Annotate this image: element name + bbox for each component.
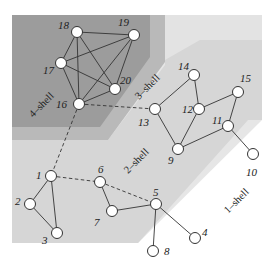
node-label-18: 18 bbox=[58, 19, 70, 31]
node-4 bbox=[190, 233, 201, 244]
node-17 bbox=[56, 58, 67, 69]
node-5 bbox=[151, 199, 162, 210]
node-label-11: 11 bbox=[212, 114, 222, 126]
node-7 bbox=[107, 206, 118, 217]
node-label-17: 17 bbox=[43, 64, 55, 76]
shell-label-1: 1–shell bbox=[222, 186, 251, 215]
node-15 bbox=[233, 87, 244, 98]
k-shell-diagram: 1 2 3 4 5 6 7 8 9 10 11 12 13 14 15 16 1… bbox=[0, 0, 274, 271]
node-label-19: 19 bbox=[118, 16, 130, 28]
node-3 bbox=[52, 228, 63, 239]
node-label-4: 4 bbox=[202, 226, 208, 238]
node-label-7: 7 bbox=[94, 216, 100, 228]
node-18 bbox=[72, 27, 83, 38]
node-label-9: 9 bbox=[168, 154, 174, 166]
node-label-2: 2 bbox=[15, 195, 21, 207]
node-8 bbox=[148, 246, 159, 257]
node-label-15: 15 bbox=[240, 72, 252, 84]
node-12 bbox=[194, 104, 205, 115]
edge-5-4 bbox=[156, 204, 195, 238]
node-label-3: 3 bbox=[41, 234, 48, 246]
node-label-13: 13 bbox=[138, 116, 150, 128]
node-14 bbox=[189, 70, 200, 81]
node-2 bbox=[25, 199, 36, 210]
node-6 bbox=[95, 177, 106, 188]
node-label-5: 5 bbox=[153, 186, 159, 198]
node-10 bbox=[248, 149, 259, 160]
node-label-1: 1 bbox=[36, 169, 42, 181]
node-label-10: 10 bbox=[246, 166, 258, 178]
node-label-12: 12 bbox=[182, 103, 194, 115]
node-9 bbox=[173, 144, 184, 155]
node-label-8: 8 bbox=[164, 245, 170, 257]
node-13 bbox=[150, 104, 161, 115]
node-label-16: 16 bbox=[56, 98, 68, 110]
node-1 bbox=[46, 171, 57, 182]
node-label-14: 14 bbox=[178, 60, 190, 72]
node-label-6: 6 bbox=[98, 163, 104, 175]
node-20 bbox=[110, 84, 121, 95]
node-19 bbox=[129, 30, 140, 41]
node-11 bbox=[223, 121, 234, 132]
node-16 bbox=[74, 99, 85, 110]
node-label-20: 20 bbox=[120, 74, 132, 86]
